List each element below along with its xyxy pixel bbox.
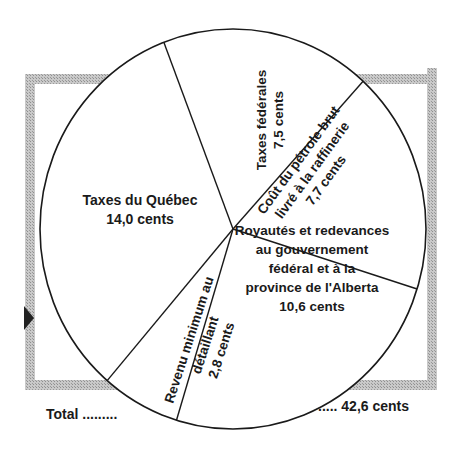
pie-chart: Taxes fédérales7,5 centsCoût du pétrole … <box>0 0 466 451</box>
svg-text:7,5 cents: 7,5 cents <box>271 91 286 149</box>
total-label: Total ......... <box>46 406 117 422</box>
svg-text:10,6 cents: 10,6 cents <box>279 299 344 314</box>
svg-text:Royautés et redevances: Royautés et redevances <box>235 223 390 238</box>
svg-text:fédéral et à la: fédéral et à la <box>269 261 356 276</box>
svg-text:14,0 cents: 14,0 cents <box>106 211 174 227</box>
svg-text:Taxes fédérales: Taxes fédérales <box>254 70 269 170</box>
svg-text:Taxes du Québec: Taxes du Québec <box>83 192 198 208</box>
svg-text:au gouvernement: au gouvernement <box>256 242 369 257</box>
svg-text:province de l'Alberta: province de l'Alberta <box>246 280 379 295</box>
total-value: ..... 42,6 cents <box>318 398 409 414</box>
